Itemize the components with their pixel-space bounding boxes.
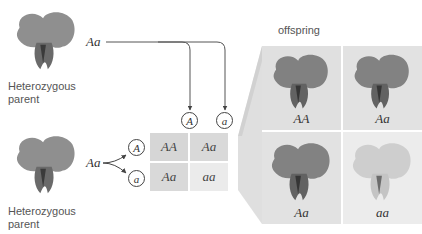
flower-image-purple xyxy=(267,138,333,204)
punnett-cell-Aa-bottom: Aa xyxy=(150,163,188,191)
gamete-side-recessive: a xyxy=(128,170,145,187)
offspring-cell-aa: aa xyxy=(343,132,422,224)
parent-top: Heterozygous parent xyxy=(8,5,98,100)
flower-image-white xyxy=(348,138,414,204)
parent-bottom-genotype: Aa xyxy=(86,155,100,171)
gamete-top-dominant: A xyxy=(181,112,198,129)
flower-image-parent-bottom xyxy=(12,131,78,197)
parent-bottom-label: Heterozygous parent xyxy=(8,205,76,231)
offspring-cell-Aa-1: Aa xyxy=(343,46,422,130)
offspring-grid: AA Aa Aa aa xyxy=(262,46,378,224)
parent-top-genotype: Aa xyxy=(86,34,100,50)
gamete-top-recessive: a xyxy=(216,112,233,129)
offspring-title: offspring xyxy=(278,24,320,36)
punnett-square: AA Aa Aa aa xyxy=(150,133,228,191)
flower-image-purple xyxy=(267,50,333,112)
parent-bottom: Heterozygous parent xyxy=(8,127,98,227)
flower-image-parent-top xyxy=(12,7,78,73)
punnett-cell-Aa-top: Aa xyxy=(190,133,228,161)
flower-image-purple xyxy=(348,50,414,112)
punnett-cell-AA: AA xyxy=(150,133,188,161)
punnett-cell-aa: aa xyxy=(190,163,228,191)
offspring-cell-Aa-2: Aa xyxy=(262,132,341,224)
parent-top-label: Heterozygous parent xyxy=(8,80,76,106)
offspring-cell-AA: AA xyxy=(262,46,341,130)
gamete-side-dominant: A xyxy=(128,139,145,156)
